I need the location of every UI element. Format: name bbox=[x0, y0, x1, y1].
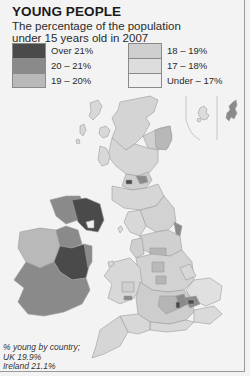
shetland bbox=[226, 100, 237, 121]
legend-item-18-19: 18 – 19% bbox=[128, 43, 222, 58]
legend-label: 20 – 21% bbox=[51, 60, 91, 71]
legend-swatch bbox=[128, 43, 162, 58]
legend-swatch bbox=[12, 58, 46, 73]
legend-label: Under – 17% bbox=[167, 75, 222, 86]
legend-item-20-21: 20 – 21% bbox=[12, 58, 93, 73]
legend-item-under-17: Under – 17% bbox=[128, 73, 222, 88]
map-subtitle: The percentage of the population under 1… bbox=[12, 21, 212, 44]
orkney bbox=[197, 106, 209, 122]
legend-item-19-20: 19 – 20% bbox=[12, 73, 93, 88]
london-inner bbox=[188, 300, 194, 304]
legend-left: Over 21% 20 – 21% 19 – 20% bbox=[12, 43, 93, 88]
map-title: YOUNG PEOPLE bbox=[12, 4, 121, 19]
footnote-line-3: Ireland 21.1% bbox=[3, 362, 80, 372]
legend-label: Over 21% bbox=[51, 45, 93, 56]
legend-swatch bbox=[12, 43, 46, 58]
derby-notts bbox=[152, 262, 164, 272]
legend-label: 18 – 19% bbox=[167, 45, 207, 56]
cardiff bbox=[124, 296, 132, 300]
legend-label: 17 – 18% bbox=[167, 60, 207, 71]
lancashire bbox=[130, 238, 144, 258]
footnote: % young by country; UK 19.9% Ireland 21.… bbox=[3, 343, 80, 372]
western-isles bbox=[89, 100, 102, 120]
skye bbox=[99, 126, 110, 138]
border-midlands bbox=[56, 226, 82, 248]
legend-item-over-21: Over 21% bbox=[12, 43, 93, 58]
devon-cornwall bbox=[92, 316, 128, 358]
choropleth-map bbox=[0, 92, 245, 372]
inverclyde bbox=[126, 180, 132, 184]
legend-label: 19 – 20% bbox=[51, 75, 91, 86]
legend-item-17-18: 17 – 18% bbox=[128, 58, 222, 73]
legend-swatch bbox=[128, 73, 162, 88]
aberdeenshire bbox=[155, 126, 172, 150]
isle-of-man bbox=[118, 226, 123, 233]
argyll bbox=[98, 146, 110, 166]
birmingham bbox=[156, 276, 166, 284]
legend-swatch bbox=[12, 73, 46, 88]
south-wales bbox=[122, 282, 134, 292]
legend-right: 18 – 19% 17 – 18% Under – 17% bbox=[128, 43, 222, 88]
luton bbox=[176, 302, 180, 308]
legend-swatch bbox=[128, 58, 162, 73]
western-isles-south bbox=[76, 124, 86, 144]
kent bbox=[194, 306, 222, 324]
